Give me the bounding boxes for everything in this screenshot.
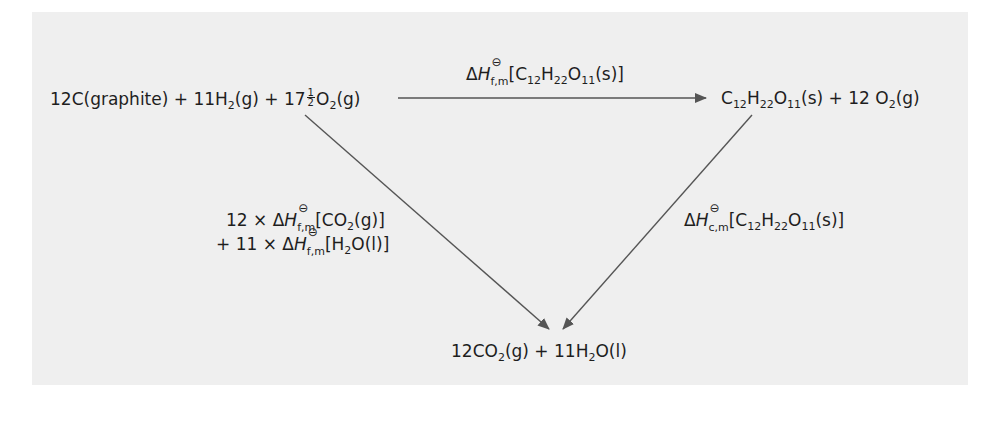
enthalpy-symbol: H — [478, 64, 491, 84]
subscript: f,m — [490, 75, 508, 88]
standard-state-icon: ⊖ — [308, 226, 318, 238]
species-text: H — [747, 88, 760, 108]
subscript: 2 — [228, 99, 235, 112]
species-text: H — [541, 64, 554, 84]
delta-symbol: Δ — [273, 210, 285, 230]
species-text: (s) + 12 O — [801, 88, 889, 108]
sub-super: ⊖c,m — [708, 217, 728, 228]
standard-state-icon: ⊖ — [298, 202, 308, 214]
products-formation-label-line1: 12 × ΔH⊖f,m[CO2(g)] — [226, 212, 385, 229]
fraction-denominator: 2 — [307, 98, 315, 107]
species-text: [C — [509, 64, 528, 84]
species-text: [CO — [315, 210, 347, 230]
enthalpy-symbol: H — [284, 210, 297, 230]
species-text: O — [568, 64, 581, 84]
subscript: 11 — [787, 98, 801, 111]
species-text: (s)] — [595, 64, 624, 84]
species-text: O — [774, 88, 787, 108]
standard-state-icon: ⊖ — [709, 202, 719, 214]
subscript: 2 — [889, 98, 896, 111]
subscript: 11 — [581, 74, 595, 87]
species-text: (g)] — [354, 210, 385, 230]
sub-super: ⊖f,m — [307, 241, 325, 252]
species-text: 12CO — [451, 341, 498, 361]
reactants-text: 12C(graphite) + 11H — [50, 89, 228, 109]
subscript: 22 — [774, 220, 788, 233]
coefficient: + 11 × — [216, 234, 282, 254]
subscript: c,m — [708, 221, 728, 234]
subscript: 12 — [747, 220, 761, 233]
subscript: 2 — [498, 351, 505, 364]
half-fraction: 12 — [307, 88, 315, 107]
subscript: 12 — [733, 98, 747, 111]
species-text: H — [761, 210, 774, 230]
enthalpy-symbol: H — [696, 210, 709, 230]
subscript: f,m — [307, 245, 325, 258]
delta-symbol: Δ — [466, 64, 478, 84]
species-text: (g) — [896, 88, 920, 108]
delta-symbol: Δ — [684, 210, 696, 230]
reactants-text: (g) — [336, 89, 360, 109]
enthalpy-symbol: H — [294, 234, 307, 254]
coefficient: 12 × — [226, 210, 273, 230]
reactants-text: O — [316, 89, 329, 109]
sucrose-label: C12H22O11(s) + 12 O2(g) — [721, 90, 920, 107]
species-text: O(l)] — [351, 234, 389, 254]
species-text: [H — [325, 234, 344, 254]
standard-state-icon: ⊖ — [491, 56, 501, 68]
formation-enthalpy-label: ΔH⊖f,m[C12H22O11(s)] — [466, 66, 624, 83]
subscript: 11 — [801, 220, 815, 233]
delta-symbol: Δ — [282, 234, 294, 254]
reactants-text: (g) + 17 — [235, 89, 306, 109]
subscript: 12 — [527, 74, 541, 87]
species-text: O — [788, 210, 801, 230]
sub-super: ⊖f,m — [490, 71, 508, 82]
combustion-enthalpy-label: ΔH⊖c,m[C12H22O11(s)] — [684, 212, 844, 229]
subscript: 22 — [760, 98, 774, 111]
species-text: (s)] — [815, 210, 844, 230]
subscript: 22 — [554, 74, 568, 87]
products-formation-label-line2: + 11 × ΔH⊖f,m[H2O(l)] — [216, 236, 389, 253]
species-text: O(l) — [595, 341, 626, 361]
reactants-label: 12C(graphite) + 11H2(g) + 1712O2(g) — [50, 90, 360, 109]
species-text: (g) + 11H — [505, 341, 589, 361]
products-label: 12CO2(g) + 11H2O(l) — [451, 343, 627, 360]
species-text: C — [721, 88, 733, 108]
species-text: [C — [729, 210, 748, 230]
